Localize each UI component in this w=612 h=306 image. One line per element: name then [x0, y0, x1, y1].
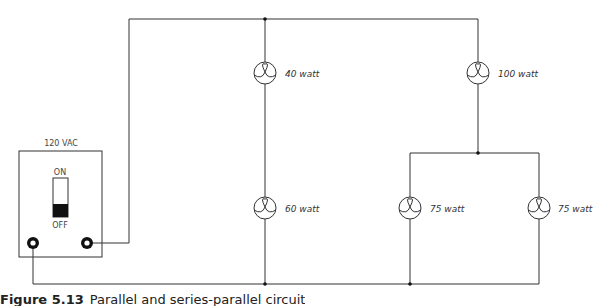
- terminal-right: [81, 237, 93, 249]
- bulb-label: 60 watt: [285, 204, 320, 214]
- figure-caption: Figure 5.13Parallel and series-parallel …: [0, 292, 305, 306]
- figure-number: Figure 5.13: [0, 292, 84, 306]
- bulb-label: 100 watt: [498, 69, 538, 79]
- bulb-75w-right-icon: [528, 197, 550, 219]
- bulb-60w-icon: [254, 197, 276, 219]
- circuit-diagram: ON OFF 120 VAC 40 watt 60 watt 100 watt …: [0, 0, 612, 306]
- bulb-label: 40 watt: [285, 69, 320, 79]
- switch-off-label: OFF: [52, 221, 68, 230]
- caption-text: Parallel and series-parallel circuit: [90, 292, 306, 306]
- bulb-label: 75 watt: [430, 204, 465, 214]
- source-label: 120 VAC: [44, 139, 78, 148]
- terminal-left: [27, 237, 39, 249]
- bulb-100w-icon: [467, 62, 489, 84]
- bulb-40w-icon: [254, 62, 276, 84]
- bulb-label: 75 watt: [558, 204, 593, 214]
- switch-on-label: ON: [54, 168, 66, 177]
- bulb-75w-left-icon: [399, 197, 421, 219]
- wire-bottom: [33, 243, 539, 284]
- wire-parallel-top: [410, 153, 539, 197]
